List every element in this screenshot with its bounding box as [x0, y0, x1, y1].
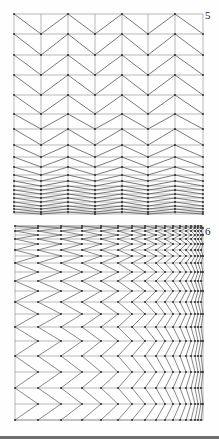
- vertex-dot: [155, 280, 157, 282]
- grid-line: [132, 228, 145, 231]
- vertex-dot: [117, 249, 119, 251]
- vertex-dot: [179, 403, 181, 405]
- grid-line: [195, 244, 198, 250]
- vertex-dot: [94, 144, 96, 146]
- vertex-dot: [121, 205, 123, 207]
- grid-line: [68, 175, 95, 181]
- vertex-dot: [40, 74, 42, 76]
- vertex-dot: [81, 225, 83, 227]
- vertex-dot: [174, 197, 176, 199]
- grid-line: [195, 250, 198, 256]
- vertex-dot: [144, 280, 146, 282]
- vertex-dot: [190, 340, 192, 342]
- grid-line: [198, 281, 201, 291]
- vertex-dot: [172, 225, 174, 227]
- grid-line: [145, 372, 156, 388]
- vertex-dot: [202, 313, 204, 315]
- vertex-dot: [179, 355, 181, 357]
- vertex-dot: [81, 290, 83, 292]
- grid-line: [195, 372, 198, 388]
- vertex-dot: [37, 243, 39, 245]
- vertex-dot: [13, 189, 15, 191]
- grid-line: [180, 356, 186, 372]
- vertex-dot: [60, 225, 62, 227]
- grid-line: [156, 302, 165, 314]
- grid-line: [175, 202, 203, 206]
- grid-line: [186, 341, 191, 356]
- vertex-dot: [81, 262, 83, 264]
- vertex-dot: [100, 225, 102, 227]
- vertex-dot: [37, 355, 39, 357]
- grid-line: [198, 302, 201, 314]
- vertex-dot: [155, 355, 157, 357]
- vertex-dot: [37, 271, 39, 273]
- vertex-dot: [164, 301, 166, 303]
- vertex-dot: [155, 234, 157, 236]
- vertex-dot: [172, 249, 174, 251]
- vertex-dot: [164, 255, 166, 257]
- vertex-dot: [200, 280, 202, 282]
- grid-line: [145, 291, 156, 302]
- grid-line: [14, 181, 41, 186]
- vertex-dot: [194, 255, 196, 257]
- vertex-dot: [172, 230, 174, 232]
- grid-line: [122, 190, 148, 194]
- vertex-dot: [179, 249, 181, 251]
- grid-line: [198, 244, 201, 250]
- grid-line: [186, 302, 191, 314]
- vertex-dot: [131, 301, 133, 303]
- vertex-dot: [164, 243, 166, 245]
- grid-line: [156, 244, 165, 250]
- grid-line: [61, 244, 82, 250]
- vertex-dot: [131, 419, 133, 421]
- grid-line: [15, 372, 38, 388]
- vertex-dot: [67, 94, 69, 96]
- grid-line: [198, 272, 201, 281]
- vertex-dot: [81, 355, 83, 357]
- grid-line: [14, 75, 41, 95]
- vertex-dot: [81, 403, 83, 405]
- grid-line: [180, 244, 186, 250]
- vertex-dot: [147, 211, 149, 213]
- vertex-dot: [121, 13, 123, 15]
- vertex-dot: [147, 156, 149, 158]
- vertex-dot: [185, 340, 187, 342]
- vertex-dot: [131, 326, 133, 328]
- grid-line: [41, 181, 68, 186]
- grid-line: [173, 228, 180, 231]
- vertex-dot: [179, 419, 181, 421]
- vertex-dot: [179, 227, 181, 229]
- grid-line: [101, 314, 118, 327]
- vertex-dot: [164, 249, 166, 251]
- vertex-dot: [194, 301, 196, 303]
- vertex-dot: [13, 193, 15, 195]
- vertex-dot: [67, 201, 69, 203]
- vertex-dot: [40, 189, 42, 191]
- vertex-dot: [60, 227, 62, 229]
- grid-line: [41, 75, 68, 95]
- vertex-dot: [13, 113, 15, 115]
- grid-line: [198, 256, 201, 263]
- grid-line: [14, 145, 41, 157]
- vertex-dot: [185, 225, 187, 227]
- vertex-dot: [144, 262, 146, 264]
- grid-line: [82, 272, 101, 281]
- grid-line: [191, 250, 195, 256]
- grid-line: [95, 181, 122, 186]
- grid-line: [145, 281, 156, 291]
- grid-line: [95, 34, 122, 55]
- vertex-dot: [164, 355, 166, 357]
- vertex-dot: [13, 94, 15, 96]
- grid-line: [122, 206, 148, 209]
- grid-line: [173, 341, 180, 356]
- vertex-dot: [100, 255, 102, 257]
- grid-line: [68, 114, 95, 129]
- vertex-dot: [37, 225, 39, 227]
- grid-line: [173, 244, 180, 250]
- grid-line: [61, 250, 82, 256]
- vertex-dot: [121, 166, 123, 168]
- vertex-dot: [81, 340, 83, 342]
- grid-line: [175, 167, 203, 175]
- vertex-dot: [13, 74, 15, 76]
- grid-line: [41, 14, 68, 34]
